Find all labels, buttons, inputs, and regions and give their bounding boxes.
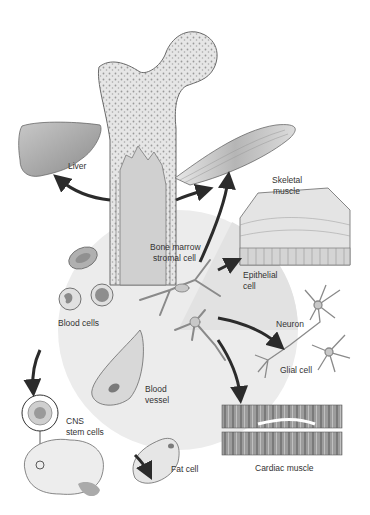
label-cns-1: CNS [66, 416, 84, 426]
brain-icon [24, 439, 103, 496]
label-skeletal-muscle-1: Skeletal [272, 175, 302, 185]
epithelial-tissue-icon [240, 188, 350, 265]
glial-cell-icon [312, 335, 350, 372]
label-epithelial-2: cell [243, 281, 256, 291]
label-neuron: Neuron [276, 319, 304, 329]
label-skeletal-muscle-2: muscle [273, 186, 300, 196]
label-cns-2: stem cells [66, 427, 104, 437]
label-stromal-1: Bone marrow [150, 242, 201, 252]
label-epithelial-1: Epithelial [243, 270, 278, 280]
marrow-cavity [120, 146, 166, 285]
label-blood-cells: Blood cells [58, 318, 99, 328]
label-cardiac-muscle: Cardiac muscle [255, 463, 314, 473]
label-glial-cell: Glial cell [280, 365, 312, 375]
label-blood-vessel-2: vessel [145, 395, 169, 405]
label-fat-cell: Fat cell [171, 464, 198, 474]
diagram-canvas: Liver Skeletal muscle Epithelial cell Ne… [0, 0, 370, 515]
label-blood-vessel-1: Blood [145, 384, 167, 394]
label-stromal-2: stromal cell [153, 253, 196, 263]
liver-icon [19, 122, 101, 176]
label-liver: Liver [68, 161, 86, 171]
